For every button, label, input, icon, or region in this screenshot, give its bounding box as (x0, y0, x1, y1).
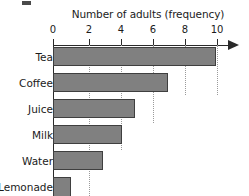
bar-juice (53, 99, 135, 118)
x-tick-label-6: 6 (150, 23, 156, 36)
bar-row-coffee: Coffee (0, 71, 249, 96)
bar-chart: Number of adults (frequency) 0 2 4 6 8 1… (0, 0, 249, 196)
bar-tea (53, 47, 216, 66)
bar-coffee (53, 73, 168, 92)
x-tick-label-2: 2 (86, 23, 92, 36)
x-tick-label-8: 8 (182, 23, 188, 36)
bar-row-water: Water (0, 149, 249, 174)
bar-milk (53, 125, 122, 144)
chart-title: Number of adults (frequency) (53, 8, 243, 20)
bar-row-juice: Juice (0, 97, 249, 122)
scan-artifact (22, 1, 31, 5)
bar-row-tea: Tea (0, 45, 249, 70)
x-tick-label-10: 10 (211, 23, 224, 36)
category-label-tea: Tea (0, 45, 53, 70)
bar-row-lemonade: Lemonade (0, 175, 249, 196)
category-label-lemonade: Lemonade (0, 175, 53, 196)
category-label-coffee: Coffee (0, 71, 53, 96)
category-label-juice: Juice (0, 97, 53, 122)
category-label-milk: Milk (0, 123, 53, 148)
bar-water (53, 151, 103, 170)
plot-area: Tea Coffee Juice Milk Water Lemonade (0, 45, 249, 196)
category-label-water: Water (0, 149, 53, 174)
x-tick-label-4: 4 (118, 23, 124, 36)
bar-lemonade (53, 177, 71, 196)
x-tick-label-0: 0 (50, 23, 56, 36)
bar-row-milk: Milk (0, 123, 249, 148)
x-axis-tick-labels: 0 2 4 6 8 10 (0, 23, 249, 37)
